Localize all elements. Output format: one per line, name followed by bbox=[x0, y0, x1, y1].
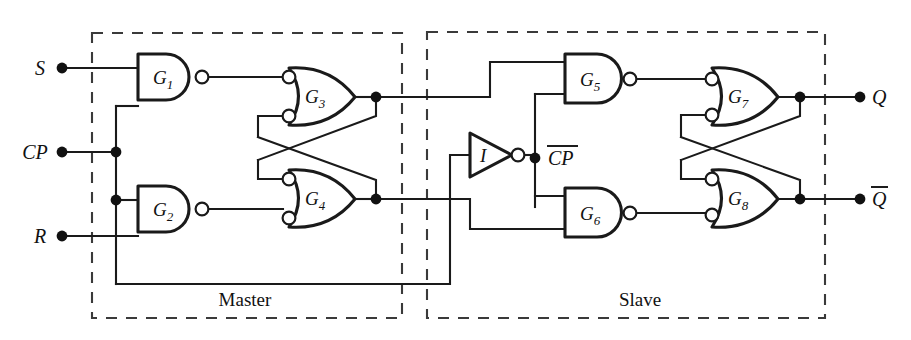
wire-g8-upper-input-stub bbox=[681, 160, 707, 179]
terminal-dot-qbar[interactable] bbox=[855, 194, 866, 205]
terminal-dot-q[interactable] bbox=[855, 92, 866, 103]
gate-g2[interactable]: G2 bbox=[138, 186, 208, 232]
gate-g6-output-bubble bbox=[624, 207, 637, 220]
junction-dot-g8-out bbox=[795, 194, 806, 205]
input-label-s: S bbox=[35, 57, 45, 79]
wire-master-qbar-to-g6 bbox=[376, 199, 565, 229]
input-label-cp: CP bbox=[22, 141, 48, 163]
gate-inverter-output-bubble bbox=[512, 149, 525, 162]
output-label-q: Q bbox=[872, 86, 887, 108]
gate-g3-input-bubble-top bbox=[283, 71, 296, 84]
gate-g1-output-bubble bbox=[196, 71, 209, 84]
gate-inverter-i[interactable]: I bbox=[470, 133, 524, 177]
logic-circuit-diagram: G1 G2 G3 G4 G5 G6 G7 bbox=[0, 0, 911, 340]
gate-g7-input-bubble-top bbox=[706, 73, 719, 86]
gate-g2-output-bubble bbox=[196, 203, 209, 216]
junction-dot-g4-out bbox=[371, 194, 382, 205]
gate-g8-input-bubble-bottom bbox=[706, 209, 719, 222]
gate-g3-input-bubble-bottom bbox=[283, 110, 296, 123]
output-label-qbar: Q bbox=[872, 188, 887, 210]
wire-master-q-to-g5 bbox=[376, 62, 565, 97]
gate-g4[interactable]: G4 bbox=[283, 170, 355, 228]
terminal-dot-s[interactable] bbox=[57, 63, 68, 74]
junction-dot-g3-out bbox=[371, 92, 382, 103]
input-label-r: R bbox=[33, 225, 46, 247]
junction-dot-cpbar bbox=[530, 153, 541, 164]
gate-g5[interactable]: G5 bbox=[565, 54, 636, 103]
wire-g3-lower-input-stub bbox=[258, 116, 283, 137]
gate-g4-input-bubble-top bbox=[283, 173, 296, 186]
gate-g1[interactable]: G1 bbox=[138, 54, 208, 100]
section-label-slave: Slave bbox=[619, 289, 661, 310]
gate-g6[interactable]: G6 bbox=[565, 188, 636, 237]
junction-dot-g7-out bbox=[795, 92, 806, 103]
internal-label-cpbar-group: CP bbox=[547, 146, 578, 169]
wire-g7-lower-input-stub bbox=[681, 115, 707, 137]
wire-g4-upper-input-stub bbox=[258, 160, 283, 179]
gate-g7-input-bubble-bottom bbox=[706, 109, 719, 122]
junction-dot-cp-2 bbox=[111, 195, 122, 206]
internal-label-cpbar: CP bbox=[548, 147, 574, 169]
gate-g5-output-bubble bbox=[624, 73, 637, 86]
section-label-master: Master bbox=[219, 289, 272, 310]
output-label-qbar-group: Q bbox=[871, 187, 888, 210]
terminal-dot-cp[interactable] bbox=[57, 147, 68, 158]
terminal-dot-r[interactable] bbox=[57, 231, 68, 242]
gate-g3[interactable]: G3 bbox=[283, 68, 355, 126]
junction-dot-cp-1 bbox=[111, 147, 122, 158]
gate-g8[interactable]: G8 bbox=[706, 170, 778, 228]
gate-g4-input-bubble-bottom bbox=[283, 212, 296, 225]
gate-g7[interactable]: G7 bbox=[706, 68, 778, 126]
gate-inverter-body bbox=[470, 133, 512, 177]
gate-g8-input-bubble-top bbox=[706, 173, 719, 186]
